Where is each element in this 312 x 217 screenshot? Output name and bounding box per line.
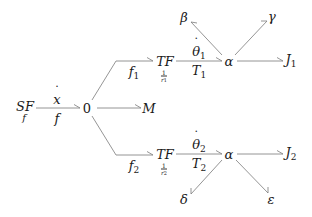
node-tf-lower: TF [156,148,174,161]
node-delta: δ [180,193,188,206]
node-tf-upper: TF [156,55,174,68]
node-gamma: γ [268,10,276,23]
edge-theta2-label: θ2 [192,138,206,154]
node-alpha-upper: α [225,55,234,68]
edge-f2-label: f2 [129,159,140,175]
tf-upper-ratio: 1 r1 [161,70,167,83]
edge-theta1-label: θ1 [192,45,206,61]
edge-alpha1-to-gamma [235,21,267,55]
node-sf: SF [16,100,34,113]
node-beta: β [180,11,188,24]
edge-sf-flow-label: x [53,93,60,106]
node-sf-sublabel: f [22,113,26,123]
connector-lines [0,0,312,217]
bond-graph-diagram: SF f x f 0 M f1 f2 TF 1 r1 TF 1 r2 θ1 T1… [0,0,312,217]
edge-0-to-tf1 [92,61,153,100]
node-j2: J2 [286,146,297,162]
node-alpha-lower: α [225,148,234,161]
edge-f1-label: f1 [129,65,140,81]
edge-0-to-tf2 [92,116,153,155]
node-mass: M [142,102,155,115]
node-j1: J1 [286,53,297,69]
edge-t2-label: T2 [192,157,206,173]
node-epsilon: ε [268,193,275,206]
tf-lower-ratio: 1 r2 [161,163,167,176]
edge-t1-label: T1 [192,64,206,80]
node-junction-0: 0 [83,102,91,115]
edge-alpha2-to-epsilon [236,160,268,193]
edge-sf-effort-label: f [55,112,60,125]
